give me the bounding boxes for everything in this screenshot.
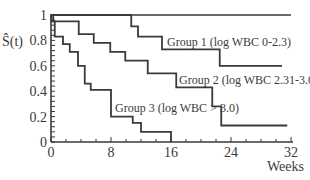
y-tick-label: 0 [40,135,47,150]
series-label-group-3: Group 3 (log WBC > 3.0) [115,101,239,115]
y-tick-label: 0.4 [30,84,48,99]
y-tick-label: 0.6 [30,59,48,74]
y-tick-label: 0.8 [30,33,48,48]
km-survival-chart: 00.20.40.60.8108162432 Group 1 (log WBC … [0,0,310,180]
x-tick-label: 16 [164,145,178,160]
x-tick-label: 8 [108,145,115,160]
series-label-group-2: Group 2 (log WBC 2.31-3.0) [179,73,310,87]
y-tick-label: 1 [40,8,47,23]
survival-curve-group-3 [51,15,171,142]
y-tick-label: 0.2 [30,110,48,125]
x-tick-label: 32 [284,145,298,160]
y-axis-label: Ŝ(t) [2,33,23,50]
x-tick-label: 0 [48,145,55,160]
x-tick-label: 24 [224,145,238,160]
series-labels: Group 1 (log WBC 0-2.3)Group 2 (log WBC … [115,35,310,115]
series-label-group-1: Group 1 (log WBC 0-2.3) [167,35,291,49]
x-axis-label: Weeks [267,159,304,174]
